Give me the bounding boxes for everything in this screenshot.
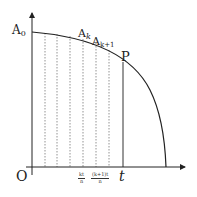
label-k1t-over-n: (k+1)t n (91, 172, 109, 184)
label-ak: Ak (78, 28, 91, 41)
ak-letter: A (78, 27, 86, 40)
diagram-svg (0, 0, 197, 197)
label-a0: A0 (12, 24, 26, 38)
k1t-denominator: n (91, 179, 109, 185)
label-kt-over-n: kt n (78, 172, 85, 184)
diagram-canvas: A0 Ak Ak+1 P O t kt n (k+1)t n (0, 0, 197, 197)
a0-subscript: 0 (21, 29, 26, 38)
ak1-letter: A (92, 35, 100, 48)
label-ak1: Ak+1 (92, 36, 115, 49)
label-t: t (119, 169, 125, 183)
a0-letter: A (12, 23, 21, 37)
label-p: P (121, 50, 130, 63)
ak-subscript: k (86, 32, 91, 41)
label-origin: O (16, 169, 27, 183)
ak1-subscript: k+1 (100, 41, 115, 49)
curve (32, 32, 166, 167)
partition-lines (45, 33, 109, 167)
kt-denominator: n (78, 179, 85, 185)
